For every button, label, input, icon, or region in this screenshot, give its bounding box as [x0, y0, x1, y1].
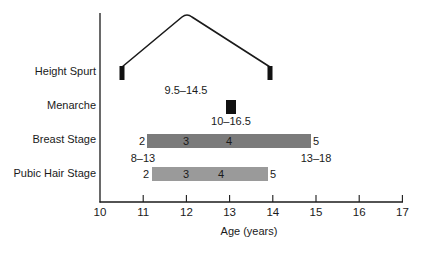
row-label-breast-stage: Breast Stage: [32, 133, 96, 145]
menarche-marker: [226, 100, 236, 114]
tick-10: 10: [94, 206, 107, 218]
breast-start-range: 8–13: [131, 152, 155, 164]
height-spurt-curve: [122, 15, 270, 67]
tick-16: 16: [353, 206, 366, 218]
tick-14: 14: [266, 206, 279, 218]
height-spurt-end-marker: [268, 66, 273, 80]
breast-stage-2: 2: [139, 135, 145, 147]
pubic-stage-3: 3: [183, 168, 189, 180]
tick-11: 11: [137, 206, 149, 218]
pubic-stage-2: 2: [143, 168, 149, 180]
row-label-pubic-hair-stage: Pubic Hair Stage: [13, 167, 96, 179]
pubic-stage-4: 4: [218, 168, 224, 180]
tick-12: 12: [180, 206, 193, 218]
menarche-range: 10–16.5: [211, 115, 251, 127]
row-labels: Height Spurt Menarche Breast Stage Pubic…: [13, 65, 96, 179]
pubic-stage-5: 5: [270, 168, 276, 180]
breast-stage-4: 4: [226, 135, 232, 147]
puberty-timeline-chart: 10 11 12 13 14 15 16 17 Age (years) Heig…: [0, 0, 427, 253]
tick-15: 15: [310, 206, 323, 218]
height-spurt-start-marker: [120, 66, 125, 80]
x-tick-labels: 10 11 12 13 14 15 16 17: [94, 206, 409, 218]
tick-13: 13: [223, 206, 236, 218]
row-label-menarche: Menarche: [47, 99, 96, 111]
breast-stage-3: 3: [183, 135, 189, 147]
height-spurt-range: 9.5–14.5: [165, 84, 208, 96]
breast-stage-5: 5: [313, 135, 319, 147]
pubic-hair-stage-bar: [152, 167, 268, 181]
tick-17: 17: [396, 206, 409, 218]
breast-end-range: 13–18: [301, 152, 332, 164]
x-axis-label: Age (years): [221, 225, 278, 237]
row-label-height-spurt: Height Spurt: [35, 65, 96, 77]
x-ticks: [143, 195, 402, 202]
